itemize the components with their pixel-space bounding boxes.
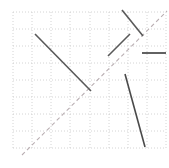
plot-svg xyxy=(0,0,169,168)
plot-canvas xyxy=(0,0,169,168)
